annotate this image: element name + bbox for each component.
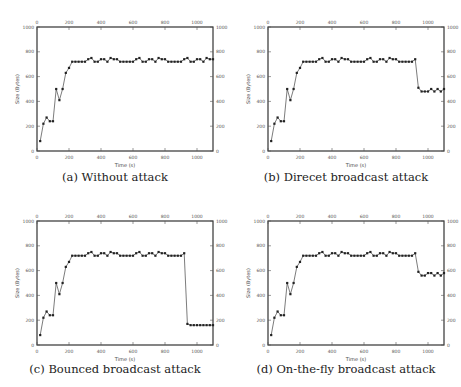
data-point xyxy=(177,255,179,257)
x-tick-label-top: 400 xyxy=(97,20,106,25)
data-point xyxy=(424,90,426,92)
data-point xyxy=(55,88,57,90)
data-point xyxy=(135,252,137,254)
y-tick-label: 400 xyxy=(25,99,34,104)
caption-b: (b) Direcet broadcast attack xyxy=(231,170,461,184)
data-point xyxy=(411,255,413,257)
data-point xyxy=(113,58,115,60)
data-point xyxy=(283,314,285,316)
y-tick-label: 0 xyxy=(262,149,265,154)
x-tick-label: 800 xyxy=(392,349,401,354)
x-tick-label: 800 xyxy=(161,349,170,354)
data-point xyxy=(183,58,185,60)
y-tick-label-right: 200 xyxy=(216,318,225,323)
data-point xyxy=(100,58,102,60)
y-tick-label-right: 400 xyxy=(216,293,225,298)
data-point xyxy=(440,90,442,92)
data-point xyxy=(46,116,48,118)
data-point xyxy=(280,120,282,122)
data-point xyxy=(94,61,96,63)
data-point xyxy=(39,140,41,142)
chart-panel-a: 0020020040040060060080080010001000002002… xyxy=(0,0,230,193)
data-point xyxy=(78,255,80,257)
data-point xyxy=(138,251,140,253)
data-point xyxy=(325,61,327,63)
data-point xyxy=(373,61,375,63)
data-point xyxy=(293,88,295,90)
y-tick-label: 1000 xyxy=(254,219,266,224)
x-tick-label-top: 200 xyxy=(296,20,305,25)
data-point xyxy=(328,61,330,63)
data-point xyxy=(42,123,44,125)
data-point xyxy=(49,120,51,122)
y-tick-label: 200 xyxy=(25,318,34,323)
y-tick-label: 800 xyxy=(25,243,34,248)
data-point xyxy=(193,324,195,326)
caption-d: (d) On-the-fly broadcast attack xyxy=(231,362,461,376)
data-point xyxy=(273,317,275,319)
x-tick-label-top: 1000 xyxy=(191,20,203,25)
data-point xyxy=(270,334,272,336)
data-point xyxy=(84,61,86,63)
data-point xyxy=(103,252,105,254)
data-point xyxy=(376,61,378,63)
y-tick-label-right: 800 xyxy=(447,49,456,54)
data-point xyxy=(318,252,320,254)
x-tick-label-top: 0 xyxy=(36,214,39,219)
data-point xyxy=(382,58,384,60)
data-point xyxy=(417,87,419,89)
data-point xyxy=(347,252,349,254)
y-tick-label: 600 xyxy=(256,74,265,79)
data-point xyxy=(392,58,394,60)
caption-a: (a) Without attack xyxy=(0,170,230,184)
y-tick-label-right: 0 xyxy=(216,343,219,348)
series-line xyxy=(271,58,444,141)
data-point xyxy=(437,272,439,274)
data-point xyxy=(401,255,403,257)
data-point xyxy=(145,255,147,257)
data-point xyxy=(408,255,410,257)
data-point xyxy=(177,61,179,63)
caption-c: (c) Bounced broadcast attack xyxy=(0,362,230,376)
data-point xyxy=(392,252,394,254)
x-tick-label: 200 xyxy=(65,155,74,160)
y-tick-label-right: 0 xyxy=(447,343,450,348)
y-tick-label: 600 xyxy=(25,268,34,273)
data-point xyxy=(119,255,121,257)
data-point xyxy=(126,255,128,257)
x-tick-label-top: 0 xyxy=(267,20,270,25)
data-point xyxy=(148,58,150,60)
data-point xyxy=(55,282,57,284)
data-point xyxy=(209,324,211,326)
y-tick-label-right: 600 xyxy=(216,268,225,273)
data-point xyxy=(277,310,279,312)
data-point xyxy=(373,255,375,257)
data-point xyxy=(49,314,51,316)
data-point xyxy=(389,57,391,59)
data-point xyxy=(331,58,333,60)
y-tick-label-right: 800 xyxy=(216,49,225,54)
x-tick-label-top: 0 xyxy=(267,214,270,219)
data-point xyxy=(273,123,275,125)
data-point xyxy=(401,61,403,63)
data-point xyxy=(202,324,204,326)
data-point xyxy=(408,61,410,63)
x-tick-label: 800 xyxy=(392,155,401,160)
data-point xyxy=(286,282,288,284)
data-point xyxy=(116,58,118,60)
data-point xyxy=(350,61,352,63)
data-point xyxy=(309,255,311,257)
data-point xyxy=(443,272,445,274)
data-point xyxy=(180,61,182,63)
data-point xyxy=(309,61,311,63)
data-point xyxy=(62,282,64,284)
data-point xyxy=(360,61,362,63)
x-tick-label: 600 xyxy=(129,155,138,160)
y-tick-label-right: 0 xyxy=(216,149,219,154)
data-point xyxy=(154,255,156,257)
data-point xyxy=(186,57,188,59)
x-tick-label-top: 1000 xyxy=(422,20,434,25)
x-tick-label-top: 200 xyxy=(65,214,74,219)
y-tick-label-right: 400 xyxy=(216,99,225,104)
chart-c: 0020020040040060060080080010001000002002… xyxy=(0,194,230,369)
